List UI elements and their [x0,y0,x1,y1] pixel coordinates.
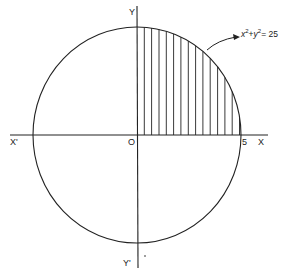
y-axis [137,6,138,268]
equation-arrow [207,37,236,50]
circle-diagram: Y Y' X' X O 5 x2+y2= 25 [0,0,285,278]
arrowhead-icon [233,34,240,40]
dot-mark [144,255,146,257]
equation-label: x2+y2= 25 [240,28,278,39]
y-axis-label: Y [129,7,135,17]
x-axis-label: X [258,137,264,147]
x-prime-label: X' [10,137,18,147]
origin-label: O [128,137,135,147]
y-prime-label: Y' [123,258,131,268]
x-intercept-label: 5 [242,137,247,147]
